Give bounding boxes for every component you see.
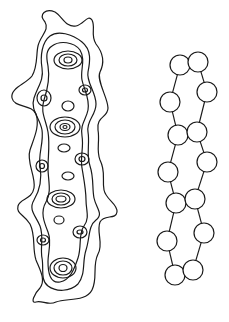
bead-circle: [197, 152, 217, 172]
bead-circle: [160, 92, 180, 112]
bead-circle: [166, 193, 186, 213]
bead-circle: [187, 122, 207, 142]
bead-circle: [183, 260, 203, 280]
bead-circle: [157, 231, 177, 251]
bead-circle: [170, 55, 190, 75]
figure-canvas: [0, 0, 229, 322]
bead-chain: [0, 0, 229, 322]
bead-circle: [188, 52, 208, 72]
bead-circle: [165, 265, 185, 285]
bead-circle: [185, 189, 205, 209]
bead-circle: [168, 125, 188, 145]
bead-circle: [194, 223, 214, 243]
bead-circle: [197, 82, 217, 102]
bead-circle: [158, 162, 178, 182]
